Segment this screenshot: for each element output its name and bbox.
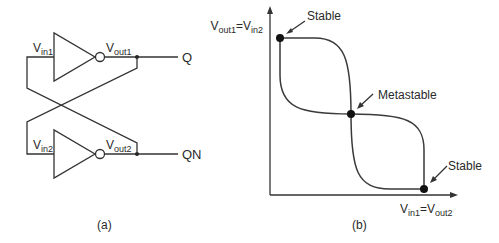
feedback-wire-out2-to-in1: [27, 57, 137, 154]
inverter-2: [54, 130, 105, 178]
vout1-label: Vout1: [106, 41, 132, 57]
stable-bottom-label: Stable: [448, 159, 482, 173]
inverter-2-triangle-icon: [54, 130, 95, 178]
feedback-wire-out1-to-in2: [27, 57, 137, 154]
qn-output-label: QN: [182, 147, 202, 162]
y-axis-label: Vout1=Vin2: [210, 19, 263, 35]
vin2-label: Vin2: [33, 138, 53, 154]
stable-top-label: Stable: [307, 9, 341, 23]
vin1-label: Vin1: [33, 41, 53, 57]
inverter-1: [54, 33, 105, 81]
panel-a-caption: (a): [97, 218, 112, 232]
metastable-point-dot: [347, 110, 355, 118]
stable-bottom-annotation-arrow-icon: [430, 166, 447, 183]
y-axis-arrow-icon: [267, 6, 273, 14]
panel-a-circuit: Vin1 Vout1 Q Vin2 Vout2 QN (a): [27, 33, 202, 232]
q-output-label: Q: [182, 50, 192, 65]
stable-top-annotation-arrow-icon: [286, 21, 305, 34]
panel-b-caption: (b): [352, 218, 367, 232]
metastable-annotation-arrow-icon: [357, 94, 373, 109]
panel-b-graph: Stable Metastable Stable Vout1=Vin2 Vin1…: [210, 6, 482, 232]
vout2-label: Vout2: [106, 138, 132, 154]
inverter-2-bubble-icon: [96, 150, 105, 159]
stable-point-top-dot: [276, 34, 284, 42]
inverter-1-triangle-icon: [54, 33, 95, 81]
bistable-latch-figure: Vin1 Vout1 Q Vin2 Vout2 QN (a): [0, 0, 499, 243]
stable-point-bottom-dot: [420, 185, 428, 193]
x-axis-arrow-icon: [450, 192, 458, 198]
inverter-1-bubble-icon: [96, 53, 105, 62]
metastable-label: Metastable: [378, 88, 437, 102]
x-axis-label: Vin1=Vout2: [400, 202, 453, 218]
